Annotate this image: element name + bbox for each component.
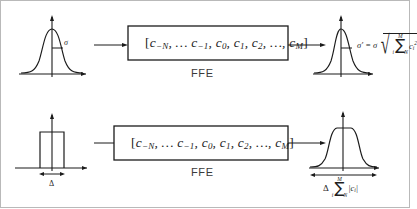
vinculum-top xyxy=(383,33,417,34)
arrowhead-block-to-output-top xyxy=(320,43,326,47)
output-width-arrow-left-bottom xyxy=(310,173,315,177)
delta-arrow-right-bottom xyxy=(60,172,65,176)
delta-arrow-left-bottom xyxy=(39,172,44,176)
row-top-graphics xyxy=(1,1,411,105)
input-y-arrowhead-bottom xyxy=(50,113,54,119)
input-x-arrowhead-bottom xyxy=(82,166,87,170)
arrowhead-input-to-block-top xyxy=(122,43,128,47)
coef-sub-4-top: 1 xyxy=(240,41,245,51)
coef-term-1-top: … xyxy=(176,35,188,50)
sigma-label-input-top: σ xyxy=(64,39,68,47)
coef-sub-7-top: M xyxy=(295,41,303,51)
output-formula-top: σ′ = σ √ M ∑ i = −N ci2 xyxy=(357,32,417,58)
summation-bottom: M ∑ i = −N xyxy=(332,177,347,199)
coef-sub-3-top: 0 xyxy=(222,41,227,51)
bracket-close-top: ] xyxy=(303,35,308,50)
coef-sub-2-bottom: −1 xyxy=(184,141,195,151)
sum-term-close-bottom: | xyxy=(356,183,358,193)
delta-lead-bottom: Δ xyxy=(323,183,329,193)
ffe-coefficients-top: [c−N, … c−1, c0, c1, c2, …, cM] xyxy=(145,36,308,51)
diagram-row-top: [c−N, … c−1, c0, c1, c2, …, cM] FFE σ σ′… xyxy=(1,1,411,105)
coef-term-6-top: … xyxy=(270,35,282,50)
ffe-label-top: FFE xyxy=(191,68,214,79)
coef-sub-5-top: 2 xyxy=(258,41,263,51)
output-y-arrowhead-bottom xyxy=(341,111,345,117)
ffe-label-bottom: FFE xyxy=(191,167,214,178)
coef-term-1-bottom: … xyxy=(162,135,174,150)
sum-term-top: ci2 xyxy=(409,40,417,51)
sum-lower-limit-bottom: i = −N xyxy=(332,193,347,199)
input-y-arrowhead-top xyxy=(50,15,54,21)
coef-sub-3-bottom: 0 xyxy=(208,141,213,151)
sqrt-group-top: √ M ∑ i = −N ci2 xyxy=(378,32,417,58)
ffe-coefficients-bottom: [c−N, … c−1, c0, c1, c2, …, cM] xyxy=(131,136,294,151)
coef-sub-5-bottom: 2 xyxy=(244,141,249,151)
output-width-arrow-right-bottom xyxy=(372,173,377,177)
diagram-row-bottom: [c−N, … c−1, c0, c1, c2, …, cM] FFE Δ Δ … xyxy=(1,105,411,209)
radical-icon-top: √ xyxy=(381,32,390,58)
coef-sub-0-top: −N xyxy=(156,41,168,51)
delta-label-input-bottom: Δ xyxy=(49,180,54,188)
coef-sub-4-bottom: 1 xyxy=(226,141,231,151)
coef-sub-0-bottom: −N xyxy=(142,141,154,151)
sum-lower-limit-top: i = −N xyxy=(393,50,408,56)
coef-sub-7-bottom: M xyxy=(281,141,289,151)
sum-term-bottom: |ci| xyxy=(348,183,358,193)
arrowhead-block-to-output-bottom xyxy=(320,141,326,145)
coef-sub-2-top: −1 xyxy=(198,41,209,51)
output-formula-bottom: Δ M ∑ i = −N |ci| xyxy=(323,177,358,199)
bracket-close-bottom: ] xyxy=(289,135,294,150)
output-y-arrowhead-top xyxy=(339,15,343,21)
coef-term-6-bottom: … xyxy=(256,135,268,150)
sigma-prime-lead-top: σ′ = σ xyxy=(357,40,377,50)
summation-top: M ∑ i = −N xyxy=(393,34,408,56)
